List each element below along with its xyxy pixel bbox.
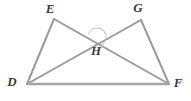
vertex-label-d: D xyxy=(6,74,17,89)
vertex-label-e: E xyxy=(45,1,55,16)
segment-de xyxy=(27,19,54,84)
vertex-label-g: G xyxy=(133,0,143,15)
vertex-label-f: F xyxy=(173,75,183,90)
segment-dg xyxy=(27,20,141,84)
angle-arc-top-icon xyxy=(89,28,106,34)
geometry-canvas: E G D F H xyxy=(0,0,191,101)
segment-ef xyxy=(54,19,169,84)
vertex-label-h: H xyxy=(90,43,102,58)
geometry-figure: E G D F H xyxy=(0,0,191,101)
segment-gf xyxy=(141,20,169,84)
